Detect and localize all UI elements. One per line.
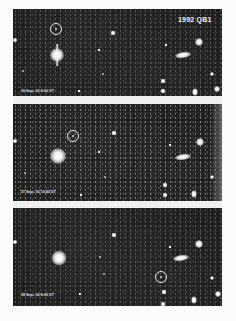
panel-caption-timestamp: 30 Sept. 92 9:00 UT (21, 89, 54, 93)
star (210, 72, 214, 76)
star (192, 296, 197, 305)
qb1-discovery-figure: 1992 QB1 30 Sept. 92 9:00 UT (0, 0, 236, 321)
moving-object (55, 28, 57, 30)
star (98, 151, 101, 154)
star-field-noise (13, 104, 222, 201)
moving-object-marker (155, 271, 167, 283)
moving-object-marker (50, 23, 62, 35)
image-panel-middle: 27 Sept. 92 10:40 UT (13, 104, 222, 201)
bright-star (52, 251, 67, 266)
star (192, 190, 197, 199)
star (215, 291, 221, 297)
star (161, 79, 166, 84)
plate-edge-glow (210, 104, 222, 201)
image-panel-bottom: 28 Sept. 92 8:00 UT (13, 208, 222, 306)
star (161, 89, 166, 94)
star (163, 193, 168, 198)
star (162, 290, 167, 295)
star (111, 31, 116, 36)
star (78, 90, 81, 93)
star (104, 176, 106, 178)
bright-star (50, 48, 64, 62)
star (195, 240, 203, 248)
moving-object (72, 135, 74, 137)
moving-object (160, 276, 162, 278)
star (112, 131, 117, 136)
star (210, 175, 214, 179)
panel-caption-timestamp: 28 Sept. 92 8:00 UT (21, 293, 54, 297)
star (163, 183, 168, 188)
panel-divider (13, 201, 222, 208)
star (99, 256, 101, 258)
moving-object-marker (67, 130, 79, 142)
star (102, 73, 104, 75)
star (103, 273, 105, 275)
star (22, 70, 24, 72)
star-field-noise (13, 208, 222, 306)
star (214, 86, 220, 92)
star (169, 144, 172, 147)
star (112, 233, 117, 238)
star (196, 138, 204, 146)
star (195, 38, 203, 46)
star (79, 293, 82, 296)
star (193, 88, 198, 97)
star (80, 194, 83, 197)
bright-star (50, 148, 66, 164)
star (165, 44, 168, 47)
panel-caption-timestamp: 27 Sept. 92 10:40 UT (21, 190, 56, 194)
object-label: 1992 QB1 (178, 16, 212, 23)
star (161, 302, 166, 307)
image-panel-top: 1992 QB1 30 Sept. 92 9:00 UT (13, 9, 222, 96)
star (98, 49, 101, 52)
star (24, 172, 26, 174)
star (210, 276, 214, 280)
star (169, 246, 172, 249)
panel-divider (13, 96, 222, 104)
